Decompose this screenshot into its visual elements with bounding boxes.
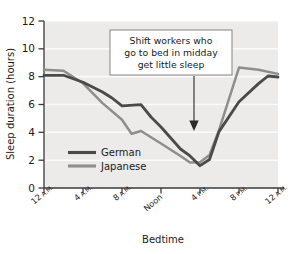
y-tick-label-10: 10 <box>22 42 35 54</box>
legend-label-german: German <box>101 147 141 158</box>
y-tick-label-2: 2 <box>28 154 35 166</box>
annotation-line-3: get little sleep <box>138 59 205 70</box>
y-tick-label-4: 4 <box>28 126 35 138</box>
legend-label-japanese: Japanese <box>100 161 146 172</box>
annotation-line-2: go to bed in midday <box>124 47 218 58</box>
x-axis-title: Bedtime <box>142 234 184 245</box>
y-axis-title: Sleep duration (hours) <box>5 48 16 160</box>
y-tick-label-0: 0 <box>28 182 35 194</box>
y-tick-label-6: 6 <box>28 98 35 110</box>
annotation-line-1: Shift workers who <box>130 35 213 46</box>
chart-figure: 0 2 4 6 8 10 12 12 A.M. 4 A.M. <box>0 0 296 254</box>
y-tick-label-12: 12 <box>22 15 35 27</box>
sleep-duration-line-chart: 0 2 4 6 8 10 12 12 A.M. 4 A.M. <box>0 0 296 254</box>
y-tick-label-8: 8 <box>28 70 35 82</box>
